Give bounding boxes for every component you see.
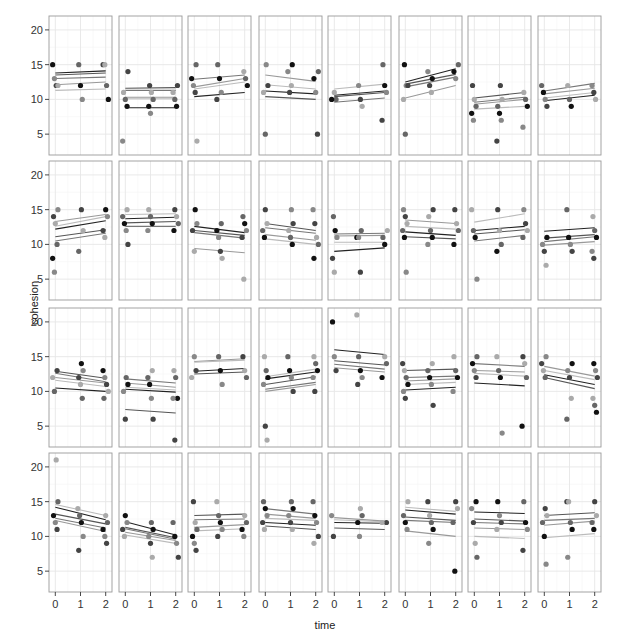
data-point <box>216 354 221 359</box>
data-point <box>76 62 81 67</box>
x-tick-label: 2 <box>592 598 598 610</box>
data-point <box>405 83 410 88</box>
data-point <box>403 132 408 137</box>
data-point <box>124 207 129 212</box>
data-point <box>380 62 385 67</box>
data-point <box>497 228 502 233</box>
data-point <box>589 249 594 254</box>
facet-panel <box>188 16 251 155</box>
data-point <box>524 375 529 380</box>
facet-panel <box>259 16 322 155</box>
data-point <box>148 111 153 116</box>
data-point <box>594 410 599 415</box>
y-tick-label: 15 <box>31 351 43 363</box>
facet-panel <box>49 308 112 447</box>
data-point <box>499 242 504 247</box>
data-point <box>426 214 431 219</box>
data-point <box>80 396 85 401</box>
data-point <box>525 104 530 109</box>
data-point <box>287 368 292 373</box>
data-point <box>77 513 82 518</box>
data-point <box>358 368 363 373</box>
data-point <box>288 520 293 525</box>
x-tick-label: 1 <box>77 598 83 610</box>
facet-panel <box>328 16 391 155</box>
data-point <box>403 520 408 525</box>
data-point <box>125 69 130 74</box>
x-tick-label: 1 <box>287 598 293 610</box>
data-point <box>427 375 432 380</box>
data-point <box>470 361 475 366</box>
data-point <box>425 368 430 373</box>
data-point <box>544 513 549 518</box>
y-tick-label: 15 <box>31 496 43 508</box>
y-tick-label: 10 <box>31 530 43 542</box>
data-point <box>263 132 268 137</box>
data-point <box>146 104 151 109</box>
data-point <box>291 506 296 511</box>
data-point <box>525 527 530 532</box>
data-point <box>52 389 57 394</box>
data-point <box>194 221 199 226</box>
data-point <box>262 235 267 240</box>
data-point <box>426 541 431 546</box>
data-point <box>100 228 105 233</box>
data-point <box>149 90 154 95</box>
data-point <box>176 555 181 560</box>
data-point <box>452 569 457 574</box>
data-point <box>220 527 225 532</box>
data-point <box>193 62 198 67</box>
data-point <box>385 228 390 233</box>
data-point <box>499 520 504 525</box>
data-point <box>51 214 56 219</box>
data-point <box>148 214 153 219</box>
data-point <box>495 104 500 109</box>
data-point <box>147 382 152 387</box>
data-point <box>191 83 196 88</box>
data-point <box>285 69 290 74</box>
data-point <box>592 228 597 233</box>
data-point <box>354 312 359 317</box>
data-point <box>316 69 321 74</box>
data-point <box>289 499 294 504</box>
data-point <box>451 242 456 247</box>
data-point <box>220 382 225 387</box>
data-point <box>384 90 389 95</box>
x-tick-label: 0 <box>262 598 268 610</box>
data-point <box>566 235 571 240</box>
data-point <box>102 235 107 240</box>
data-point <box>264 437 269 442</box>
data-point <box>145 375 150 380</box>
data-point <box>175 83 180 88</box>
data-point <box>122 221 127 226</box>
data-point <box>311 76 316 81</box>
data-point <box>402 62 407 67</box>
data-point <box>425 499 430 504</box>
facet-panel <box>188 161 251 300</box>
data-point <box>264 513 269 518</box>
data-point <box>401 97 406 102</box>
data-point <box>450 389 455 394</box>
data-point <box>404 527 409 532</box>
data-point <box>543 506 548 511</box>
data-point <box>148 541 153 546</box>
facet-panel <box>49 161 112 300</box>
data-point <box>453 76 458 81</box>
data-point <box>173 375 178 380</box>
data-point <box>261 382 266 387</box>
data-point <box>150 221 155 226</box>
data-point <box>332 354 337 359</box>
data-point <box>591 256 596 261</box>
data-point <box>594 235 599 240</box>
facet-panel <box>468 308 531 447</box>
data-point <box>356 83 361 88</box>
facet-panel <box>538 16 601 155</box>
data-point <box>497 513 502 518</box>
data-point <box>100 527 105 532</box>
data-point <box>569 104 574 109</box>
data-point <box>330 319 335 324</box>
data-point <box>219 221 224 226</box>
facet-panel <box>328 453 391 592</box>
y-tick-label: 20 <box>31 24 43 36</box>
data-point <box>291 221 296 226</box>
